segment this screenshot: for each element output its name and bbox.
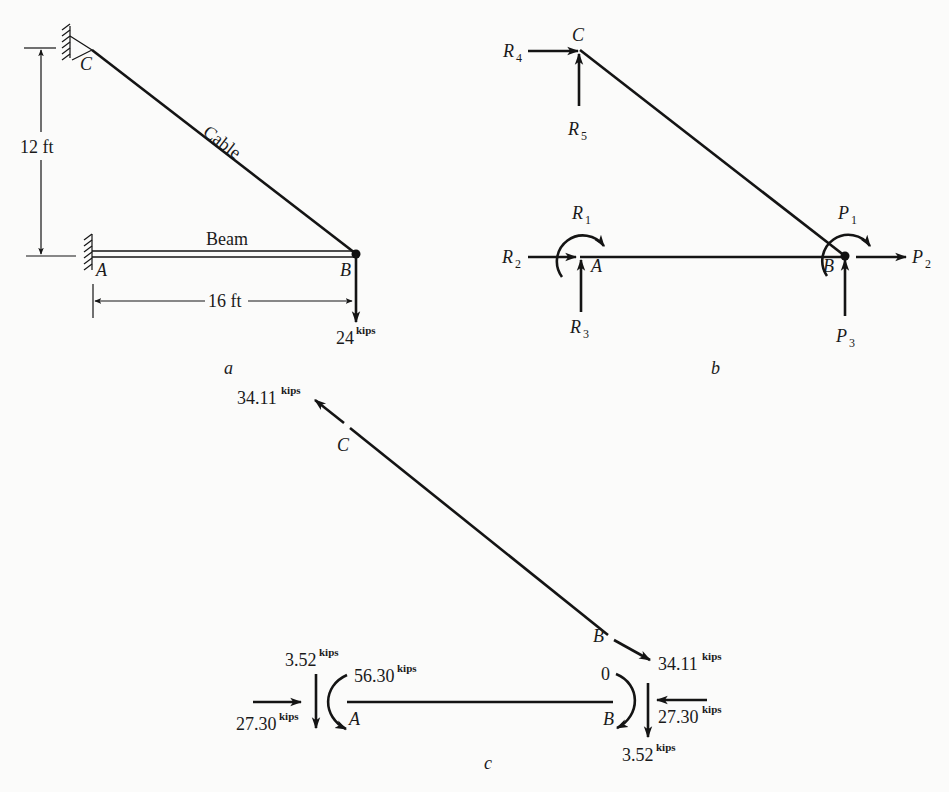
label-point-c-c: C	[337, 435, 350, 455]
force-r5-label: R 5	[567, 119, 587, 143]
svg-text:3.52: 3.52	[622, 745, 654, 765]
length-dimension: 16 ft	[93, 284, 352, 318]
svg-text:3: 3	[583, 327, 589, 341]
svg-text:R: R	[501, 247, 513, 267]
cable-label: Cable	[200, 121, 245, 162]
structural-diagram: C Cable Beam A B 24 kips	[0, 0, 949, 792]
svg-text:kips: kips	[656, 741, 676, 753]
force-r3-label: R 3	[569, 317, 589, 341]
label-point-b: B	[340, 260, 351, 280]
caption-a: a	[224, 358, 233, 378]
cable-force-b-label: 34.11 kips	[658, 650, 722, 674]
figure-c: 34.11 kips C B 34.11 kips A B 27.30 kips…	[236, 384, 722, 773]
svg-text:5: 5	[581, 129, 587, 143]
svg-text:56.30: 56.30	[354, 666, 395, 686]
cable-force-c-arrow-icon	[315, 400, 344, 423]
moment-p1-label: P 1	[837, 203, 857, 227]
shear-force-b-label: 3.52 kips	[622, 741, 676, 765]
svg-text:P: P	[835, 326, 847, 346]
figure-a: C Cable Beam A B 24 kips	[20, 24, 376, 378]
svg-text:kips: kips	[702, 703, 722, 715]
svg-text:27.30: 27.30	[658, 707, 699, 727]
label-point-c-b: C	[572, 25, 585, 45]
moment-b-label: 0	[601, 664, 610, 684]
cable-force-c-label: 34.11 kips	[237, 384, 301, 408]
svg-text:24: 24	[336, 328, 354, 348]
svg-text:R: R	[502, 41, 514, 61]
svg-text:34.11: 34.11	[237, 388, 277, 408]
svg-text:1: 1	[851, 213, 857, 227]
axial-force-b-label: 27.30 kips	[658, 703, 722, 727]
svg-text:kips: kips	[281, 384, 301, 396]
label-point-a-b: A	[590, 256, 603, 276]
cable-fbd	[580, 50, 845, 256]
force-p3-label: P 3	[835, 326, 855, 350]
svg-text:kips: kips	[397, 662, 417, 674]
svg-text:R: R	[569, 317, 581, 337]
svg-text:16 ft: 16 ft	[208, 291, 242, 311]
svg-text:3.52: 3.52	[285, 650, 317, 670]
svg-text:kips: kips	[279, 710, 299, 722]
moment-r1-label: R 1	[571, 203, 591, 227]
label-point-c: C	[80, 54, 93, 74]
svg-text:1: 1	[585, 213, 591, 227]
svg-text:R: R	[567, 119, 579, 139]
wall-support-a-icon	[84, 234, 92, 270]
svg-text:12 ft: 12 ft	[20, 137, 54, 157]
label-point-b-c-cable: B	[593, 626, 604, 646]
caption-c: c	[484, 753, 492, 773]
svg-text:2: 2	[515, 257, 521, 271]
svg-text:27.30: 27.30	[236, 714, 277, 734]
node-b-fbd-icon	[841, 252, 850, 261]
svg-text:3: 3	[849, 336, 855, 350]
beam-label: Beam	[206, 229, 248, 249]
svg-text:kips: kips	[319, 646, 339, 658]
cable-force-b-arrow-icon	[614, 640, 650, 660]
force-r4-label: R 4	[502, 41, 522, 65]
figure-b: C R 4 R 5 A B R 1 R 2 R	[501, 25, 931, 378]
svg-text:P: P	[837, 203, 849, 223]
label-point-a: A	[95, 260, 108, 280]
svg-text:kips: kips	[356, 324, 376, 336]
svg-text:R: R	[571, 203, 583, 223]
force-p2-label: P 2	[911, 247, 931, 271]
svg-text:34.11: 34.11	[658, 654, 698, 674]
height-dimension: 12 ft	[20, 48, 76, 256]
svg-text:2: 2	[925, 257, 931, 271]
cable-member	[350, 428, 608, 635]
label-point-b-c: B	[603, 709, 614, 729]
caption-b: b	[711, 358, 720, 378]
svg-text:P: P	[911, 247, 923, 267]
label-point-a-c: A	[348, 709, 361, 729]
svg-text:kips: kips	[702, 650, 722, 662]
force-r2-label: R 2	[501, 247, 521, 271]
moment-a-label: 56.30 kips	[354, 662, 417, 686]
svg-text:4: 4	[516, 51, 522, 65]
axial-force-a-label: 27.30 kips	[236, 710, 299, 734]
beam	[92, 251, 355, 257]
load-label: 24 kips	[336, 324, 376, 348]
shear-force-a-label: 3.52 kips	[285, 646, 339, 670]
moment-b-arrow-icon	[616, 674, 635, 728]
moment-a-arrow-icon	[328, 675, 347, 729]
